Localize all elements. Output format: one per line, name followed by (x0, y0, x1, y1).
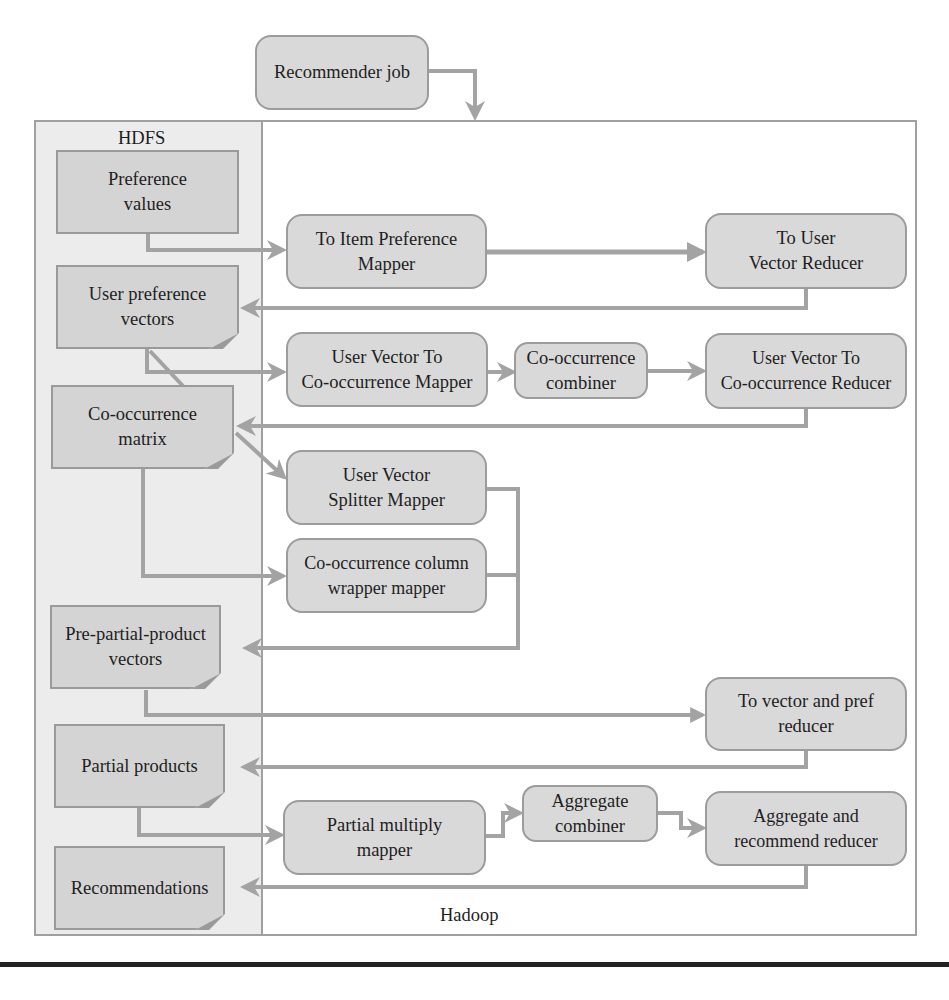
job-to-item-preference-mapper: To Item Preference Mapper (286, 214, 487, 289)
file-label: Pre-partial-product vectors (65, 622, 206, 672)
job-label: Partial multiply mapper (327, 813, 443, 863)
page-fold-icon (209, 333, 239, 349)
job-label: To vector and pref reducer (738, 689, 874, 739)
job-aggregate-combiner: Aggregate combiner (522, 785, 658, 842)
job-label: Co-occurrence combiner (527, 346, 636, 396)
job-aggregate-and-recommend-reducer: Aggregate and recommend reducer (705, 791, 907, 866)
file-label: Co-occurrence matrix (88, 402, 197, 452)
page-fold-icon (191, 673, 221, 689)
hdfs-file-pre-partial-product-vectors: Pre-partial-product vectors (50, 605, 221, 689)
file-label: Partial products (81, 754, 198, 779)
recommender-job-label: Recommender job (274, 60, 410, 85)
hdfs-file-partial-products: Partial products (54, 724, 225, 808)
edge-job-to-hadoop (428, 71, 475, 117)
hdfs-file-user-preference-vectors: User preference vectors (56, 265, 239, 349)
job-partial-multiply-mapper: Partial multiply mapper (283, 800, 486, 875)
page-fold-icon (195, 792, 225, 808)
job-cooccurrence-column-wrapper-mapper: Co-occurrence column wrapper mapper (286, 538, 487, 613)
job-label: Aggregate and recommend reducer (734, 804, 877, 854)
job-user-vector-to-cooccurrence-reducer: User Vector To Co-occurrence Reducer (705, 333, 907, 409)
hdfs-file-preference-values: Preference values (56, 150, 239, 234)
file-label: Recommendations (71, 876, 209, 901)
job-label: User Vector To Co-occurrence Mapper (301, 345, 472, 395)
bottom-rule-divider (0, 962, 949, 967)
job-to-vector-and-pref-reducer: To vector and pref reducer (705, 677, 907, 751)
hadoop-label: Hadoop (440, 905, 499, 926)
hdfs-file-cooccurrence-matrix: Co-occurrence matrix (51, 385, 234, 469)
page-fold-icon (195, 914, 225, 930)
job-label: To User Vector Reducer (749, 226, 864, 276)
job-user-vector-to-cooccurrence-mapper: User Vector To Co-occurrence Mapper (286, 332, 488, 407)
file-label: User preference vectors (89, 282, 207, 332)
file-label: Preference values (108, 167, 187, 217)
recommender-job-node: Recommender job (255, 35, 429, 110)
page-fold-icon (204, 453, 234, 469)
job-to-user-vector-reducer: To User Vector Reducer (705, 213, 907, 289)
hdfs-label: HDFS (118, 128, 165, 149)
job-user-vector-splitter-mapper: User Vector Splitter Mapper (286, 450, 487, 525)
job-label: User Vector Splitter Mapper (328, 463, 445, 513)
job-label: User Vector To Co-occurrence Reducer (721, 346, 891, 396)
hdfs-file-recommendations: Recommendations (54, 846, 225, 930)
job-label: Co-occurrence column wrapper mapper (304, 551, 468, 601)
job-label: To Item Preference Mapper (316, 227, 458, 277)
job-cooccurrence-combiner: Co-occurrence combiner (514, 342, 648, 399)
job-label: Aggregate combiner (551, 789, 628, 839)
